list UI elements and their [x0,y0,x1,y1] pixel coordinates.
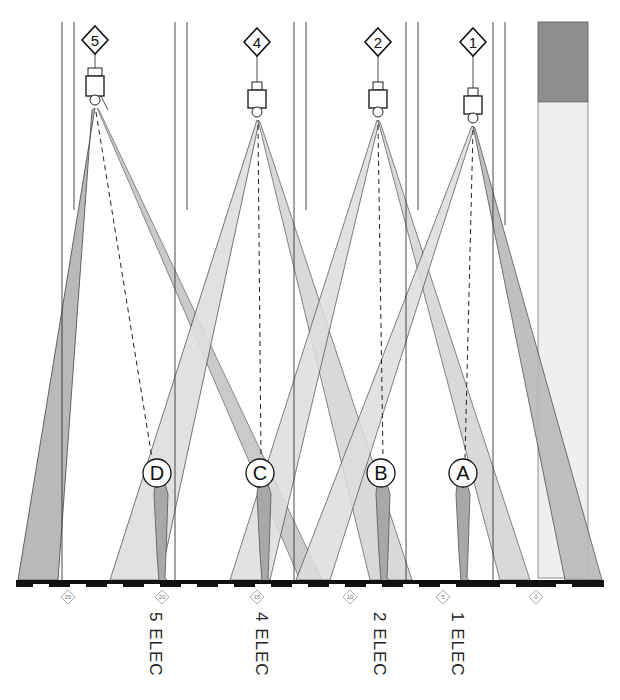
target-d: D [143,459,171,487]
scale-marker-5: 5 [436,590,450,604]
electric-label-4: 4 ELEC [251,612,271,677]
svg-text:25: 25 [65,594,72,600]
electric-label-2: 2 ELEC [369,612,389,677]
target-a: A [449,459,477,487]
svg-text:10: 10 [347,594,354,600]
fixture-tag-2: 2 [365,28,391,56]
electric-label-5: 5 ELEC [145,612,165,677]
focus-targets: D C B A [143,459,477,487]
target-b: B [367,459,395,487]
fixture-tag-5: 5 [82,26,108,54]
beam-5-left [18,108,95,580]
target-c: C [246,459,274,487]
svg-text:5: 5 [91,32,99,49]
svg-text:A: A [456,462,470,484]
svg-text:D: D [150,462,164,484]
fixture-tag-1: 1 [460,28,486,56]
electric-label-1: 1 ELEC [447,612,467,677]
fixture-5 [86,52,108,110]
fixture-tag-4: 4 [244,28,270,56]
fixture-4 [248,54,266,117]
svg-text:4: 4 [253,34,261,51]
scale-marker-15: 15 [250,590,264,604]
svg-text:15: 15 [254,594,261,600]
svg-text:C: C [253,462,267,484]
svg-text:1: 1 [469,34,477,51]
distance-scale: 25 20 15 10 5 0 [61,590,543,604]
svg-text:2: 2 [374,34,382,51]
fixture-1 [464,54,482,123]
scale-marker-0: 0 [529,590,543,604]
lighting-section-diagram: 5 4 2 1 [0,0,620,700]
scale-marker-10: 10 [343,590,357,604]
scale-marker-25: 25 [61,590,75,604]
stage-floor [16,580,604,587]
svg-text:20: 20 [159,594,166,600]
svg-text:B: B [374,462,387,484]
fixture-id-tags: 5 4 2 1 [82,26,486,56]
fixture-2 [369,54,387,117]
scale-marker-20: 20 [155,590,169,604]
light-beams [18,108,602,580]
